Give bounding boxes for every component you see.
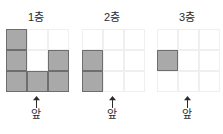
floor-panel-3-title: 3층 <box>151 11 223 24</box>
floor-panel-1: 1층 앞 <box>0 0 72 134</box>
floor-panel-2-title: 2층 <box>76 11 148 24</box>
cell-r1c3 <box>124 29 145 50</box>
cell-r1c1 <box>6 29 27 50</box>
cell-r2c2 <box>27 50 48 71</box>
cell-r1c2 <box>178 29 199 50</box>
cell-r3c2 <box>178 71 199 92</box>
cell-r3c1 <box>157 71 178 92</box>
floor-plan-figure: 1층 앞 2층 <box>0 0 223 134</box>
cell-r1c1 <box>157 29 178 50</box>
floor-panel-3-grid <box>157 29 220 92</box>
cell-r3c1 <box>6 71 27 92</box>
cell-r3c3 <box>124 71 145 92</box>
cell-r2c3 <box>199 50 220 71</box>
cell-r2c3 <box>124 50 145 71</box>
cell-r2c1 <box>6 50 27 71</box>
floor-panel-1-title: 1층 <box>0 11 72 24</box>
floor-panel-1-grid <box>6 29 69 92</box>
cell-r2c1 <box>157 50 178 71</box>
cell-r3c2 <box>27 71 48 92</box>
cell-r1c2 <box>103 29 124 50</box>
cell-r2c1 <box>82 50 103 71</box>
front-label-2: 앞 <box>76 107 148 121</box>
cell-r1c1 <box>82 29 103 50</box>
cell-r2c3 <box>48 50 69 71</box>
cell-r1c2 <box>27 29 48 50</box>
cell-r1c3 <box>199 29 220 50</box>
front-label-1: 앞 <box>0 107 72 121</box>
floor-panel-2: 2층 앞 <box>76 0 148 134</box>
front-label-3: 앞 <box>151 107 223 121</box>
cell-r3c3 <box>199 71 220 92</box>
cell-r3c1 <box>82 71 103 92</box>
floor-panel-3: 3층 앞 <box>151 0 223 134</box>
cell-r2c2 <box>178 50 199 71</box>
cell-r2c2 <box>103 50 124 71</box>
cell-r1c3 <box>48 29 69 50</box>
cell-r3c2 <box>103 71 124 92</box>
cell-r3c3 <box>48 71 69 92</box>
floor-panel-2-grid <box>82 29 145 92</box>
